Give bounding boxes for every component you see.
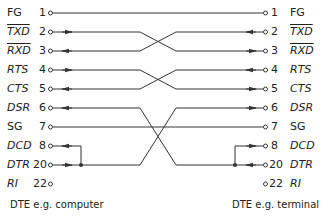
right-signal-txd: TXD xyxy=(290,26,313,38)
left-signal-rxd: RXD xyxy=(7,45,31,57)
right-pin-20: 20 xyxy=(269,159,283,171)
right-junction-dot xyxy=(233,163,237,167)
right-signal-dtr: DTR xyxy=(290,159,313,171)
right-device-caption: DTE e.g. terminal xyxy=(232,199,319,211)
left-pin-7: 7 xyxy=(39,121,46,133)
right-signal-rts: RTS xyxy=(290,64,311,76)
right-pin-1: 1 xyxy=(271,7,278,19)
left-pin-5: 5 xyxy=(39,83,46,95)
wire-left-dcd-loop xyxy=(53,146,81,165)
right-pin-22: 22 xyxy=(269,178,283,190)
left-signal-dtr: DTR xyxy=(7,159,30,171)
wire-rxd-from-txd xyxy=(53,32,263,51)
left-signal-sg: SG xyxy=(7,121,23,133)
wire-dtr-to-dsr xyxy=(53,108,263,165)
left-pin-3: 3 xyxy=(39,45,46,57)
left-signal-txd: TXD xyxy=(7,26,30,38)
left-pin-4: 4 xyxy=(39,64,46,76)
left-signal-ri: RI xyxy=(7,178,18,190)
left-signal-fg: FG xyxy=(7,7,22,19)
wire-cts-from-rts xyxy=(53,70,263,89)
right-pin-3: 3 xyxy=(271,45,278,57)
right-signal-dcd: DCD xyxy=(290,140,315,152)
right-signal-cts: CTS xyxy=(290,83,311,95)
left-signal-dcd: DCD xyxy=(7,140,32,152)
right-signal-fg: FG xyxy=(290,7,305,19)
left-signal-rts: RTS xyxy=(7,64,28,76)
right-pin-2: 2 xyxy=(271,26,278,38)
left-pin-20: 20 xyxy=(33,159,47,171)
right-pin-5: 5 xyxy=(271,83,278,95)
left-pin-2: 2 xyxy=(39,26,46,38)
right-pin-4: 4 xyxy=(271,64,278,76)
right-signal-dsr: DSR xyxy=(290,102,313,114)
left-pin-22: 22 xyxy=(33,178,47,190)
wire-right-dcd-loop xyxy=(235,146,263,165)
right-pin-7: 7 xyxy=(271,121,278,133)
left-pin-6: 6 xyxy=(39,102,46,114)
right-pin-6: 6 xyxy=(271,102,278,114)
right-signal-rxd: RXD xyxy=(290,45,314,57)
right-signal-ri: RI xyxy=(290,178,301,190)
right-signal-sg: SG xyxy=(290,121,306,133)
right-pin-8: 8 xyxy=(271,140,278,152)
left-pin-8: 8 xyxy=(39,140,46,152)
left-device-caption: DTE e.g. computer xyxy=(10,199,104,211)
left-pin-1: 1 xyxy=(39,7,46,19)
left-signal-dsr: DSR xyxy=(7,102,30,114)
left-junction-dot xyxy=(79,163,83,167)
left-signal-cts: CTS xyxy=(7,83,28,95)
null-modem-diagram: FG TXD RXD RTS CTS DSR SG DCD DTR RI 1 2… xyxy=(0,0,321,220)
